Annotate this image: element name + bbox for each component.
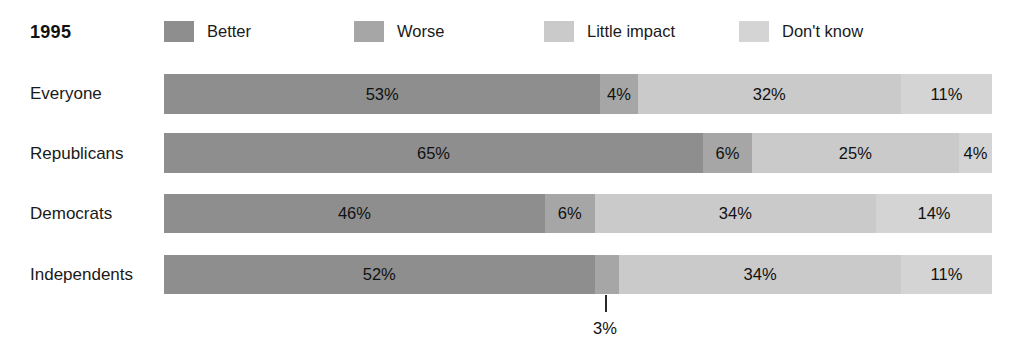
segment-value: 34% bbox=[719, 205, 752, 222]
segment-value: 34% bbox=[744, 266, 777, 283]
row-label-everyone: Everyone bbox=[30, 85, 102, 102]
segment-value: 4% bbox=[607, 86, 631, 103]
row-label-independents: Independents bbox=[30, 266, 133, 283]
segment-value: 11% bbox=[931, 266, 963, 283]
segment-value: 25% bbox=[839, 145, 872, 162]
bar-segment-worse: 3% bbox=[595, 255, 620, 294]
bar-segment-worse: 6% bbox=[703, 133, 752, 173]
bar-segment-better: 65% bbox=[164, 133, 703, 173]
bar-segment-don-t-know: 14% bbox=[876, 194, 992, 233]
bar-segment-little-impact: 34% bbox=[595, 194, 877, 233]
segment-value: 53% bbox=[366, 86, 399, 103]
bar-segment-don-t-know: 11% bbox=[901, 74, 992, 114]
bar-segment-worse: 6% bbox=[545, 194, 595, 233]
row-label-republicans: Republicans bbox=[30, 145, 124, 162]
bar-segment-little-impact: 25% bbox=[752, 133, 959, 173]
segment-value: 65% bbox=[417, 145, 450, 162]
bar-segment-don-t-know: 4% bbox=[959, 133, 992, 173]
bar-segment-little-impact: 32% bbox=[638, 74, 901, 114]
stacked-bar: 52%3%34%11% bbox=[164, 255, 992, 294]
bar-segment-worse: 4% bbox=[600, 74, 637, 114]
stacked-bar-chart: 1995 BetterWorseLittle impactDon't know … bbox=[0, 0, 1019, 350]
segment-value: 4% bbox=[963, 145, 987, 162]
row-label-democrats: Democrats bbox=[30, 205, 112, 222]
segment-value: 11% bbox=[931, 86, 963, 103]
segment-value: 6% bbox=[558, 205, 582, 222]
segment-value: 52% bbox=[363, 266, 396, 283]
bar-segment-little-impact: 34% bbox=[619, 255, 901, 294]
bar-segment-better: 46% bbox=[164, 194, 545, 233]
stacked-bar: 53%4%32%11% bbox=[164, 74, 992, 114]
stacked-bar: 46%6%34%14% bbox=[164, 194, 992, 233]
segment-value: 32% bbox=[753, 86, 786, 103]
stacked-bar: 65%6%25%4% bbox=[164, 133, 992, 173]
segment-value: 6% bbox=[716, 145, 740, 162]
bar-segment-better: 53% bbox=[164, 74, 600, 114]
segment-value: 46% bbox=[338, 205, 371, 222]
bar-segment-better: 52% bbox=[164, 255, 595, 294]
bar-segment-don-t-know: 11% bbox=[901, 255, 992, 294]
chart-rows: Everyone53%4%32%11%Republicans65%6%25%4%… bbox=[0, 0, 1019, 350]
segment-value: 14% bbox=[918, 205, 951, 222]
